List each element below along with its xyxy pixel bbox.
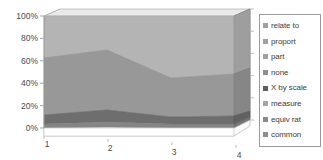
y-tick-label-100: 100% <box>16 11 38 21</box>
area-depth-none <box>234 68 250 116</box>
legend-item-x-by-scale[interactable]: X by scale <box>263 80 318 96</box>
legend-item-equiv-rat[interactable]: equiv rat <box>263 112 318 128</box>
legend-item-label: proport <box>271 34 296 50</box>
x-tick-label-3: 3 <box>172 147 177 157</box>
chart-ceiling-plane <box>44 9 250 16</box>
legend-item-label: part <box>271 49 284 65</box>
secondary-axis-ticks <box>250 9 254 120</box>
chart-floor-front <box>44 128 234 136</box>
legend-item-proport[interactable]: proport <box>263 34 318 50</box>
legend-swatch-icon <box>263 23 268 28</box>
y-axis-ticks <box>40 16 44 128</box>
legend-item-part[interactable]: part <box>263 49 318 65</box>
legend-swatch-icon <box>263 54 268 59</box>
legend-swatch-icon <box>263 86 268 91</box>
y-tick-label-60: 60% <box>21 56 38 66</box>
legend-swatch-icon <box>263 117 268 122</box>
legend-item-label: none <box>271 65 288 81</box>
area-depth-relate-to <box>234 9 250 74</box>
legend-item-common[interactable]: common <box>263 127 318 143</box>
y-tick-label-80: 80% <box>21 33 38 43</box>
legend-item-label: relate to <box>271 18 299 34</box>
x-tick-label-2: 2 <box>108 143 113 153</box>
legend-swatch-icon <box>263 132 268 137</box>
x-tick-label-1: 1 <box>45 139 50 149</box>
legend-item-label: measure <box>271 96 301 112</box>
chart-legend: relate to proport part none X by scale m… <box>259 14 321 147</box>
x-tick-label-4: 4 <box>237 150 242 160</box>
legend-item-label: X by scale <box>271 80 307 96</box>
chart-container: 100% 80% 60% 40% 20% 0% 1 2 3 4 relate t… <box>0 0 323 160</box>
legend-item-label: common <box>271 127 301 143</box>
y-tick-label-40: 40% <box>21 78 38 88</box>
legend-item-label: equiv rat <box>271 112 301 128</box>
legend-item-measure[interactable]: measure <box>263 96 318 112</box>
y-tick-label-0: 0% <box>26 123 39 133</box>
x-axis-ticks <box>44 136 236 148</box>
legend-swatch-icon <box>263 70 268 75</box>
y-tick-label-20: 20% <box>21 101 38 111</box>
legend-swatch-icon <box>263 39 268 44</box>
legend-item-none[interactable]: none <box>263 65 318 81</box>
legend-item-relate-to[interactable]: relate to <box>263 18 318 34</box>
legend-swatch-icon <box>263 101 268 106</box>
